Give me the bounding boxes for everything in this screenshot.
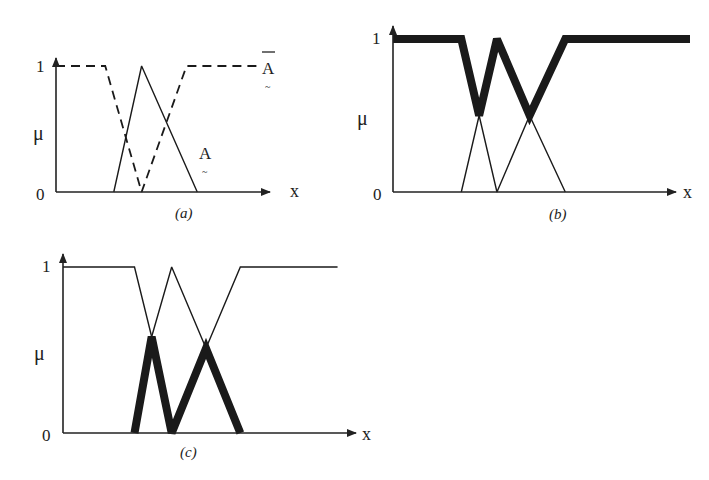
curve-a-complement: [63, 267, 338, 433]
tilde-mark: ~: [265, 81, 271, 92]
y-axis-label: μ: [33, 122, 44, 145]
complement-label: A: [262, 59, 275, 78]
y-bottom-label: 0: [36, 185, 45, 204]
set-a-label: A: [199, 144, 212, 163]
curve-a-complement: [56, 66, 257, 192]
tilde-mark: ~: [202, 166, 208, 177]
curve-a: [114, 66, 197, 192]
y-axis-label: μ: [34, 342, 45, 365]
panel-c: 1 μ 0 x (c): [34, 254, 371, 461]
panel-b: 1 μ 0 x (b): [357, 26, 692, 223]
y-top-label: 1: [372, 29, 381, 48]
x-axis-label: x: [683, 182, 692, 202]
y-axis-label: μ: [357, 107, 368, 130]
y-top-label: 1: [36, 57, 45, 76]
curve-intersection: [135, 337, 241, 433]
panel-caption: (c): [180, 444, 197, 461]
fuzzy-set-figure: 1 μ 0 x (a) A ~ A ~ 1 μ 0 x (b) 1 μ 0 x …: [0, 0, 709, 480]
x-axis-label: x: [362, 424, 371, 444]
x-axis-label: x: [290, 181, 299, 201]
y-bottom-label: 0: [373, 185, 382, 204]
panel-caption: (a): [175, 205, 193, 222]
panel-caption: (b): [549, 206, 567, 223]
y-bottom-label: 0: [42, 426, 51, 445]
y-top-label: 1: [42, 257, 51, 276]
curve-union: [393, 39, 690, 116]
panel-a: 1 μ 0 x (a) A ~ A ~: [33, 52, 299, 222]
